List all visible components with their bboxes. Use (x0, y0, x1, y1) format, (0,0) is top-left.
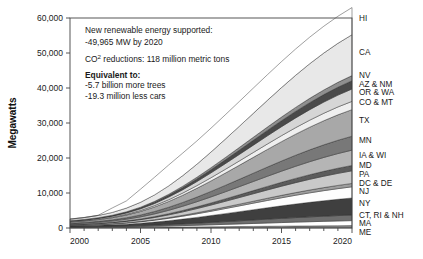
legend-label-mn: MN (359, 136, 372, 145)
legend-label-me: ME (359, 228, 372, 237)
annotation-line-4: Equivalent to: (85, 70, 140, 80)
legend-label-tx: TX (359, 116, 370, 125)
legend-label-nj: NJ (359, 187, 369, 196)
x-tick-label: 2000 (70, 236, 89, 246)
y-tick-label: 30,000 (37, 118, 63, 128)
y-axis-title: Megawatts (7, 97, 18, 149)
legend-label-hi: HI (359, 14, 367, 23)
x-tick-label: 2015 (272, 236, 291, 246)
y-tick-label: 0 (58, 223, 63, 233)
x-tick-label: 2020 (333, 236, 352, 246)
y-tick-label: 20,000 (37, 153, 63, 163)
y-tick-label: 60,000 (37, 13, 63, 23)
y-tick-label: 10,000 (37, 188, 63, 198)
legend: HICANVAZ & NMOR & WACO & MTTXMNIA & WIMD… (359, 14, 404, 237)
annotation-line-1: New renewable energy supported: (85, 25, 213, 35)
legend-label-md: MD (359, 161, 372, 170)
chart-svg: 010,00020,00030,00040,00050,00060,000 20… (0, 0, 423, 259)
y-tick-label: 40,000 (37, 83, 63, 93)
legend-label-ia-wi: IA & WI (359, 151, 386, 160)
annotation-line-2: -49,965 MW by 2020 (85, 37, 163, 47)
x-axis: 20002005201020152020 (70, 228, 352, 246)
x-tick-label: 2005 (131, 236, 150, 246)
annotation-line-6: -19.3 million less cars (85, 91, 166, 101)
x-tick-label: 2010 (202, 236, 221, 246)
legend-label-or-wa: OR & WA (359, 88, 395, 97)
annotation-line-5: -5.7 billion more trees (85, 80, 166, 90)
y-tick-label: 50,000 (37, 48, 63, 58)
annotation-line-3: CO2 reductions: 118 million metric tons (85, 53, 229, 64)
legend-label-co-mt: CO & MT (359, 98, 393, 107)
legend-label-ca: CA (359, 48, 371, 57)
renewable-energy-stacked-area-chart: 010,00020,00030,00040,00050,00060,000 20… (0, 0, 423, 259)
y-axis: 010,00020,00030,00040,00050,00060,000 (37, 13, 70, 233)
legend-label-ny: NY (359, 199, 371, 208)
